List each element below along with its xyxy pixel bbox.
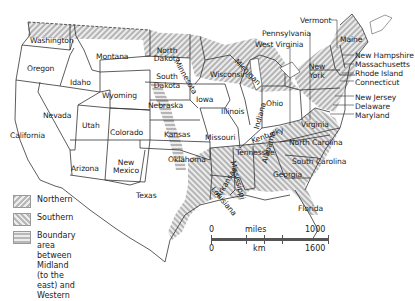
label-north-carolina: North Carolina — [289, 138, 343, 147]
scale-tick — [282, 235, 283, 244]
label-vermont: Vermont — [300, 16, 331, 25]
label-south-dakota-2: Dakota — [150, 81, 184, 90]
label-idaho: Idaho — [70, 78, 91, 87]
label-nevada: Nevada — [43, 111, 71, 120]
label-massachusetts: Massachusetts — [355, 60, 410, 69]
label-ohio: Ohio — [266, 99, 283, 108]
scale-tick — [246, 235, 247, 244]
scale-km-zero: 0 — [209, 244, 214, 253]
label-delaware: Delaware — [355, 102, 390, 111]
label-utah: Utah — [82, 121, 100, 130]
label-new-york-1: New — [307, 62, 327, 71]
label-nebraska: Nebraska — [148, 101, 183, 110]
legend-label-northern: Northern — [37, 195, 73, 205]
scale-bar: 0 miles 1000 0 km 1600 — [205, 225, 335, 255]
label-illinois: Illinois — [221, 107, 244, 116]
label-oklahoma: Oklahoma — [168, 155, 206, 164]
label-montana: Montana — [96, 52, 128, 61]
nova-scotia-outline — [370, 15, 392, 34]
label-texas: Texas — [136, 191, 157, 200]
label-california: California — [10, 131, 45, 140]
scale-tick — [328, 235, 329, 244]
label-maine: Maine — [340, 35, 362, 44]
legend-label-boundary-line1: Boundary area between Midland — [37, 231, 76, 271]
legend-item-southern: Southern — [13, 213, 73, 226]
label-new-hampshire: New Hampshire — [355, 51, 414, 60]
northern-hatch-swatch — [13, 195, 31, 208]
label-new-mexico-2: Mexico — [108, 166, 144, 175]
southern-hatch-swatch — [13, 213, 31, 226]
label-georgia: Georgia — [273, 170, 302, 179]
scale-miles-max: 1000 — [305, 225, 325, 234]
label-florida: Florida — [298, 204, 323, 213]
scale-tick — [211, 235, 212, 244]
label-iowa: Iowa — [196, 95, 213, 104]
legend-item-boundary: Boundary area between Midland (to the ea… — [13, 231, 76, 301]
legend-item-northern: Northern — [13, 195, 73, 208]
label-kansas: Kansas — [164, 130, 190, 139]
label-colorado: Colorado — [110, 128, 143, 137]
label-new-york-2: York — [307, 71, 327, 80]
label-new-jersey: New Jersey — [355, 93, 396, 102]
label-connecticut: Connecticut — [355, 78, 399, 87]
scale-tick — [264, 235, 265, 244]
label-missouri: Missouri — [205, 133, 235, 142]
legend-label-boundary-line2: (to the east) and Western — [37, 271, 76, 301]
label-south-carolina: South Carolina — [292, 157, 346, 166]
label-west-virginia: West Virginia — [255, 40, 303, 49]
scale-km-unit: km — [253, 244, 265, 253]
label-maryland: Maryland — [355, 111, 389, 120]
label-arizona: Arizona — [71, 164, 99, 173]
boundary-hatch-swatch — [13, 231, 31, 244]
label-virginia: Virginia — [301, 120, 329, 129]
scale-km-max: 1600 — [305, 244, 325, 253]
scale-miles-zero: 0 — [209, 225, 214, 234]
label-pennsylvania: Pennsylvania — [262, 29, 311, 38]
legend-label-southern: Southern — [37, 213, 73, 223]
scale-bar-line — [211, 238, 329, 241]
scale-miles-unit: miles — [245, 225, 266, 234]
label-rhode-island: Rhode Island — [355, 69, 403, 78]
label-wyoming: Wyoming — [102, 91, 137, 100]
label-washington: Washington — [30, 36, 74, 45]
label-oregon: Oregon — [27, 64, 54, 73]
